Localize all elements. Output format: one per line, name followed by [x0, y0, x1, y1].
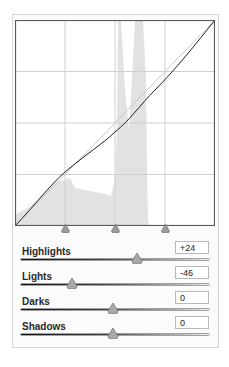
- highlights-slider-track[interactable]: [20, 258, 210, 261]
- shadows-value-field[interactable]: 0: [175, 316, 209, 329]
- lights-value-field[interactable]: -46: [175, 266, 209, 279]
- darks-label: Darks: [22, 296, 50, 307]
- split-marker-lights-highlights[interactable]: [161, 224, 170, 233]
- shadows-slider-thumb[interactable]: [107, 328, 119, 339]
- tone-curve-graph[interactable]: [15, 20, 215, 226]
- lights-label: Lights: [22, 271, 52, 282]
- curve-canvas[interactable]: [15, 20, 215, 226]
- highlights-slider-thumb[interactable]: [131, 253, 143, 264]
- lights-slider-track[interactable]: [20, 283, 210, 286]
- highlights-value-field[interactable]: +24: [175, 241, 209, 254]
- split-marker-shadows-darks[interactable]: [61, 224, 70, 233]
- darks-value-field[interactable]: 0: [175, 291, 209, 304]
- split-marker-darks-lights[interactable]: [111, 224, 120, 233]
- darks-slider-thumb[interactable]: [107, 303, 119, 314]
- lights-slider-thumb[interactable]: [66, 278, 78, 289]
- shadows-label: Shadows: [22, 321, 66, 332]
- highlights-label: Highlights: [22, 246, 71, 257]
